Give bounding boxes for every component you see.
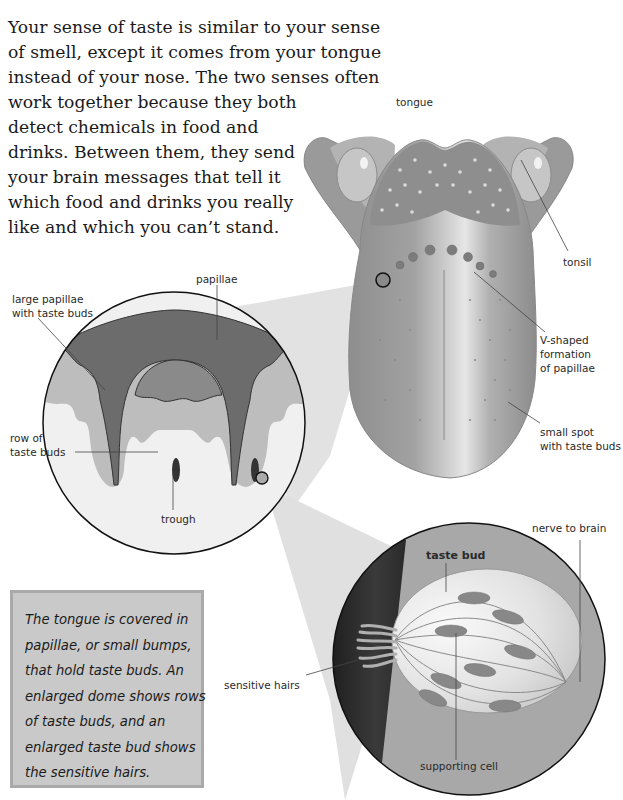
label-small-spot-2: with taste buds <box>540 439 621 453</box>
caption-line: papillae, or small bumps, <box>25 633 191 659</box>
label-trough: trough <box>161 512 196 526</box>
label-supporting-cell: supporting cell <box>420 759 498 773</box>
label-v-shaped-3: of papillae <box>540 361 595 375</box>
label-papillae: papillae <box>196 272 237 286</box>
label-nerve-to-brain: nerve to brain <box>532 521 606 535</box>
zoom-marker-tongue <box>376 273 390 287</box>
label-taste-bud: taste bud <box>426 549 485 563</box>
caption-line: the sensitive hairs. <box>25 760 191 786</box>
caption-line: enlarged dome shows rows <box>25 684 191 710</box>
caption-line: enlarged taste bud shows <box>25 735 191 761</box>
label-sensitive-hairs: sensitive hairs <box>224 678 300 692</box>
label-small-spot-1: small spot <box>540 425 594 439</box>
zoom-marker-dome <box>256 472 268 484</box>
label-v-shaped-2: formation <box>540 347 591 361</box>
caption-box: The tongue is covered in papillae, or sm… <box>10 590 204 788</box>
label-large-papillae-1: large papillae <box>12 292 83 306</box>
label-v-shaped-1: V-shaped <box>540 333 589 347</box>
label-row-of-2: taste buds <box>10 445 65 459</box>
label-row-of-1: row of <box>10 431 43 445</box>
caption-text: The tongue is covered in papillae, or sm… <box>13 593 201 786</box>
label-tonsil: tonsil <box>563 255 592 269</box>
caption-line: of taste buds, and an <box>25 709 191 735</box>
caption-line: that hold taste buds. An <box>25 658 191 684</box>
caption-line: The tongue is covered in <box>25 607 191 633</box>
label-tongue: tongue <box>396 95 433 109</box>
label-large-papillae-2: with taste buds <box>12 306 93 320</box>
